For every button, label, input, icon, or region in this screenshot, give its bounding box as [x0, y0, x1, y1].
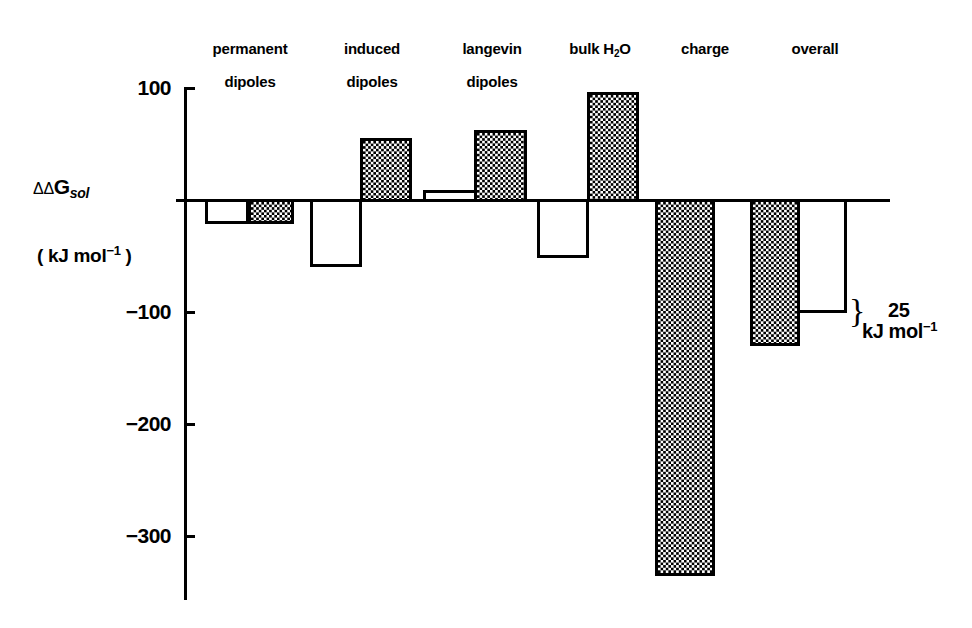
bar-chart: permanent dipoles induced dipoles langev…	[0, 0, 972, 628]
bar-permanent-dipoles-open	[205, 199, 249, 224]
category-label-line1: induced	[344, 40, 400, 57]
y-tick-label-minus-300: −300	[86, 524, 171, 548]
y-axis-title-g: G	[54, 175, 70, 198]
category-label-langevin-dipoles: langevin dipoles	[432, 24, 552, 91]
category-label-line2: dipoles	[224, 73, 275, 90]
annotation-value: 25	[888, 300, 937, 320]
y-axis-title-subscript: sol	[70, 185, 89, 201]
category-label-bulk-oxygen: O	[619, 40, 630, 57]
bar-bulk-water-stippled	[587, 92, 639, 202]
category-label-bulk-water: bulk H2O	[545, 24, 655, 59]
y-axis-units: ( kJ mol−1 )	[37, 243, 132, 267]
y-tick-label-100: 100	[96, 76, 171, 100]
category-label-overall: overall	[760, 24, 870, 58]
category-label-text: charge	[681, 40, 729, 57]
annotation-units: kJ mol	[862, 320, 923, 342]
y-axis-line	[184, 87, 187, 600]
category-label-charge: charge	[650, 24, 760, 58]
y-axis-title-delta: ΔΔ	[33, 180, 54, 197]
category-label-line2: dipoles	[346, 73, 397, 90]
y-tick-minus-100	[184, 311, 195, 314]
y-axis-units-exponent: −1	[106, 243, 120, 258]
category-label-bulk-text: bulk H	[569, 40, 614, 57]
annotation-exponent: −1	[923, 319, 937, 334]
bar-permanent-dipoles-stippled	[248, 199, 294, 224]
bar-langevin-dipoles-open	[423, 190, 477, 202]
y-axis-title: ΔΔGsol	[33, 175, 89, 201]
bar-langevin-dipoles-stippled	[474, 130, 527, 202]
bar-induced-dipoles-open	[310, 199, 362, 267]
y-axis-units-open: ( kJ mol	[37, 245, 106, 266]
category-label-induced-dipoles: induced dipoles	[312, 24, 432, 91]
bar-charge-stippled	[655, 199, 715, 576]
y-tick-label-minus-100: −100	[86, 300, 171, 324]
category-label-text: overall	[792, 40, 839, 57]
bar-overall-open	[797, 199, 847, 313]
bar-bulk-water-open	[537, 199, 589, 258]
category-label-line2: dipoles	[466, 73, 517, 90]
bar-overall-stippled	[750, 199, 800, 346]
category-label-line1: permanent	[213, 40, 288, 57]
y-axis-units-close: )	[121, 245, 132, 266]
y-tick-100	[184, 87, 195, 90]
y-tick-minus-300	[184, 535, 195, 538]
category-label-permanent-dipoles: permanent dipoles	[185, 24, 315, 91]
y-tick-minus-200	[184, 423, 195, 426]
bar-induced-dipoles-stippled	[360, 138, 412, 202]
category-label-line1: langevin	[462, 40, 521, 57]
y-tick-label-minus-200: −200	[86, 412, 171, 436]
annotation-difference: 25 kJ mol−1	[862, 300, 937, 341]
